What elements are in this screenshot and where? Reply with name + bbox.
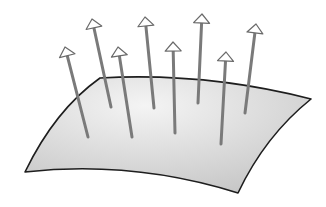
- arrow-head-icon: [138, 17, 154, 27]
- arrow-head-icon: [218, 52, 234, 61]
- surface-normals-diagram: [0, 0, 326, 207]
- arrow-head-icon: [111, 47, 127, 57]
- arrow-head-icon: [86, 19, 102, 29]
- arrow-head-icon: [165, 42, 181, 51]
- arrow-head-icon: [194, 14, 210, 23]
- diagram-svg: [0, 0, 326, 207]
- arrow-head-icon: [247, 24, 263, 34]
- curved-surface-patch: [25, 77, 311, 193]
- arrow-head-icon: [59, 47, 75, 58]
- arrow-shaft: [173, 51, 175, 133]
